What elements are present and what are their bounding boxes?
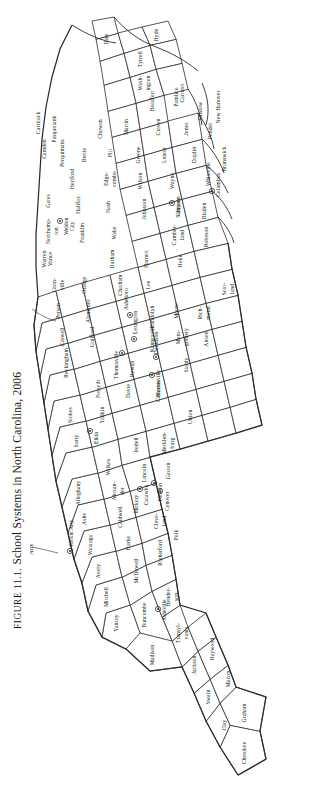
county-label: Wilkes xyxy=(105,458,111,475)
city-system-label: City xyxy=(69,221,75,231)
county-label: Franklin xyxy=(79,222,85,242)
county-label: Polk xyxy=(173,529,179,540)
county-label: Bladen xyxy=(201,202,207,219)
county-label: Avery xyxy=(95,563,101,577)
city-system-label: Whiteville xyxy=(205,161,211,185)
county-label: Burke xyxy=(125,535,131,550)
county-label: Wilson xyxy=(137,172,143,189)
county-label: vania xyxy=(183,626,189,639)
annotation-labels: Roanoke Rapids Mount Airy xyxy=(30,286,34,557)
county-label: burg xyxy=(169,437,175,448)
county-label: McDowell xyxy=(133,558,139,583)
county-label: Hyde xyxy=(153,28,159,41)
county-label: Randolph xyxy=(149,305,155,328)
county-label: Person xyxy=(55,302,61,318)
county-label: Caswell xyxy=(59,327,65,346)
county-label: son xyxy=(173,592,179,600)
county-label: Yancey xyxy=(113,614,119,631)
city-system-label: Thomasville xyxy=(113,350,119,378)
county-label: Orange xyxy=(81,275,87,293)
county-label: Rutherford xyxy=(157,539,163,565)
county-label: Northamp- xyxy=(45,218,51,244)
figure-label: FIGURE 11.1. xyxy=(13,568,23,629)
county-label: Craven xyxy=(155,118,161,135)
county-label: Swain xyxy=(205,689,211,704)
county-label: land xyxy=(179,229,185,239)
county-label: Camden xyxy=(41,139,47,159)
county-label: Pamlico xyxy=(173,87,179,106)
county-label: Harnett xyxy=(143,249,149,267)
county-label: Guilford xyxy=(89,326,95,346)
county-label: land xyxy=(229,283,235,293)
county-label: Scot- xyxy=(221,282,227,295)
county-label: Iredell xyxy=(133,436,139,452)
county-label: Carteret xyxy=(179,83,185,102)
county-label: Dare xyxy=(103,32,109,44)
county-label: Vance xyxy=(47,251,53,266)
county-label: Davie xyxy=(125,383,131,397)
county-label: Surry xyxy=(73,434,79,447)
county-label: Columbus xyxy=(215,172,221,197)
county-label: Forsyth xyxy=(95,379,101,397)
county-label: Graham xyxy=(241,703,247,722)
city-system-label: Kannapolis xyxy=(149,326,155,351)
county-label: Rockingham xyxy=(63,347,69,378)
county-label: Rowan xyxy=(129,360,135,377)
county-label: der xyxy=(119,487,125,495)
county-label: Stanly xyxy=(183,357,189,372)
county-label: Alexan- xyxy=(111,481,117,500)
county-label: Martin xyxy=(123,118,129,134)
city-system-marker-icon xyxy=(69,550,71,552)
city-system-label: Mooresville xyxy=(155,369,161,397)
county-label: Pitt xyxy=(107,148,113,157)
county-label: Mont- xyxy=(175,329,181,344)
county-label: Pender xyxy=(207,122,213,138)
county-label: Madison xyxy=(149,644,155,665)
county-label: Chatham xyxy=(117,273,123,295)
county-label: Jackson xyxy=(191,655,197,674)
figure-title: School Systems in North Carolina, 2006 xyxy=(11,372,23,565)
county-label: Transyl- xyxy=(175,623,181,643)
county-label: Anson xyxy=(203,331,209,346)
city-system-marker-icon xyxy=(59,220,61,222)
map-annotation-label: Airy xyxy=(30,542,34,554)
county-label: Tyrrell xyxy=(137,50,143,66)
county-label: Duplin xyxy=(191,146,197,162)
county-label: Wake xyxy=(111,226,117,240)
county-label: gomery xyxy=(183,327,189,345)
county-label: Buncombe xyxy=(141,601,147,627)
county-label: Hertford xyxy=(69,168,75,188)
county-label: Yadkin xyxy=(99,406,105,423)
county-label: combe xyxy=(111,170,117,186)
county-label: Johnston xyxy=(141,198,147,219)
county-label: Lenoir xyxy=(161,147,167,163)
county-label: Rich- xyxy=(197,306,203,319)
county-label: Caldwell xyxy=(117,506,123,528)
county-label: Lee xyxy=(145,280,151,289)
county-label: Bertie xyxy=(81,147,87,162)
city-system-label: Clinton xyxy=(175,199,181,216)
county-label: Perquimans xyxy=(59,138,65,167)
county-label: Gaston xyxy=(165,462,171,479)
county-label: Halifax xyxy=(75,196,81,214)
county-label: Gates xyxy=(45,193,51,207)
county-label: Hoke xyxy=(177,254,183,267)
county-label: ville xyxy=(59,279,65,290)
county-label: New Hanover xyxy=(215,90,221,123)
city-system-label: Asheville xyxy=(161,599,167,621)
city-system-label: Asheboro xyxy=(123,288,129,310)
county-label: Robeson xyxy=(203,226,209,247)
city-system-label: Mount Airy xyxy=(68,519,74,545)
county-label: Cleve- xyxy=(153,513,159,529)
county-label: Edge- xyxy=(103,171,109,185)
county-label: Cherokee xyxy=(241,741,247,764)
county-label: land xyxy=(161,515,167,525)
county-label: ton xyxy=(53,227,59,235)
county-label: Alamance xyxy=(85,298,91,322)
city-system-label: Conover xyxy=(164,491,170,510)
county-label: Warren xyxy=(41,250,47,267)
county-label: Cumber- xyxy=(171,224,177,245)
county-label: mond xyxy=(205,306,211,319)
county-label: Ashe xyxy=(81,512,87,524)
county-label: Macon xyxy=(225,670,231,686)
